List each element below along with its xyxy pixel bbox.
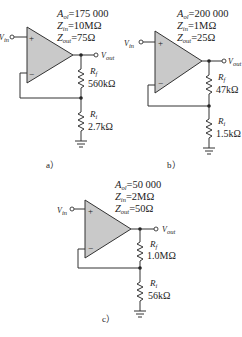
- zout-param: Zout=50Ω: [115, 203, 154, 215]
- ri-value: 1.5kΩ: [216, 128, 241, 139]
- vout-terminal: [94, 53, 98, 57]
- rf-resistor: [78, 55, 84, 98]
- circuit-b-label: b）: [167, 160, 181, 170]
- vin-label: Vin: [124, 39, 134, 49]
- ground-icon: [75, 141, 87, 147]
- vin-label: Vin: [0, 33, 9, 43]
- circuit-b: Aol=200 000 Zin=1MΩ Zout=25Ω + − Vin Vou…: [124, 8, 241, 170]
- opamp-circuits-figure: Aol=175 000 Zin=10MΩ Zout=75Ω + − Vin Vo…: [0, 0, 242, 337]
- vout-terminal: [154, 227, 158, 231]
- circuit-a-params: Aol=175 000 Zin=10MΩ Zout=75Ω: [56, 8, 109, 44]
- minus-sign: −: [29, 69, 34, 79]
- ri-symbol: Ri: [89, 109, 98, 120]
- zin-param: Zin=2MΩ: [115, 191, 154, 203]
- rf-symbol: Rf: [89, 66, 99, 77]
- ground-icon: [134, 311, 146, 317]
- rf-resistor: [137, 229, 143, 268]
- vin-terminal: [10, 35, 14, 39]
- ri-symbol: Ri: [217, 116, 226, 127]
- circuit-b-params: Aol=200 000 Zin=1MΩ Zout=25Ω: [176, 8, 229, 44]
- ri-value: 2.7kΩ: [88, 121, 113, 132]
- zin-param: Zin=1MΩ: [177, 20, 216, 32]
- rf-value: 1.0MΩ: [147, 250, 176, 261]
- ri-symbol: Ri: [149, 278, 158, 289]
- ri-resistor: [206, 106, 212, 148]
- zout-param: Zout=25Ω: [177, 32, 216, 44]
- ri-value: 56kΩ: [148, 290, 170, 301]
- zin-param: Zin=10MΩ: [57, 20, 102, 32]
- rf-value: 560kΩ: [88, 78, 115, 89]
- minus-sign: −: [88, 243, 93, 253]
- plus-sign: +: [158, 38, 163, 48]
- circuit-c-label: c）: [102, 314, 115, 324]
- rf-symbol: Rf: [149, 239, 159, 250]
- vin-terminal: [70, 207, 74, 211]
- rf-resistor: [206, 61, 212, 106]
- ground-icon: [203, 148, 215, 154]
- aol-param: Aol=50 000: [114, 179, 161, 191]
- vin-label: Vin: [57, 206, 67, 216]
- plus-sign: +: [88, 206, 93, 216]
- ri-resistor: [78, 98, 84, 141]
- vout-terminal: [222, 59, 226, 63]
- circuit-a-label: a）: [46, 160, 59, 170]
- circuit-c: Aol=50 000 Zin=2MΩ Zout=50Ω + − Vin Vout…: [57, 179, 176, 324]
- aol-param: Aol=175 000: [56, 8, 109, 20]
- vout-label: Vout: [101, 51, 114, 61]
- zout-param: Zout=75Ω: [57, 32, 96, 44]
- vout-label: Vout: [228, 57, 241, 67]
- aol-param: Aol=200 000: [176, 8, 229, 20]
- rf-value: 47kΩ: [216, 84, 238, 95]
- vin-terminal: [139, 40, 143, 44]
- plus-sign: +: [29, 33, 34, 43]
- vout-label: Vout: [162, 225, 175, 235]
- circuit-a: Aol=175 000 Zin=10MΩ Zout=75Ω + − Vin Vo…: [0, 8, 115, 170]
- rf-symbol: Rf: [217, 72, 227, 83]
- ri-resistor: [137, 268, 143, 311]
- minus-sign: −: [158, 78, 163, 88]
- circuit-c-params: Aol=50 000 Zin=2MΩ Zout=50Ω: [114, 179, 161, 215]
